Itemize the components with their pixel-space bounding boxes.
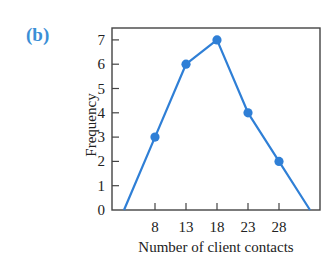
plot-border	[112, 28, 320, 210]
x-axis: 813182328	[151, 203, 286, 235]
plot-frame	[112, 28, 320, 210]
data-point-marker	[181, 60, 190, 69]
frequency-polygon-chart: 01234567 813182328 Frequency Number of c…	[0, 0, 334, 262]
y-tick-label: 7	[98, 32, 106, 48]
y-tick-label: 1	[98, 178, 106, 194]
x-tick-label: 13	[179, 219, 194, 235]
x-tick-label: 18	[210, 219, 225, 235]
data-series	[124, 35, 310, 210]
data-point-marker	[243, 108, 252, 117]
x-tick-label: 28	[272, 219, 287, 235]
data-point-marker	[150, 133, 159, 142]
data-point-marker	[212, 35, 221, 44]
x-axis-title: Number of client contacts	[138, 239, 294, 255]
y-axis: 01234567	[98, 32, 120, 218]
y-tick-label: 0	[98, 202, 106, 218]
series-line	[124, 40, 310, 210]
x-tick-label: 8	[151, 219, 159, 235]
data-point-marker	[274, 157, 283, 166]
y-axis-title: Frequency	[83, 93, 99, 157]
x-tick-label: 23	[241, 219, 256, 235]
y-tick-label: 6	[98, 56, 106, 72]
